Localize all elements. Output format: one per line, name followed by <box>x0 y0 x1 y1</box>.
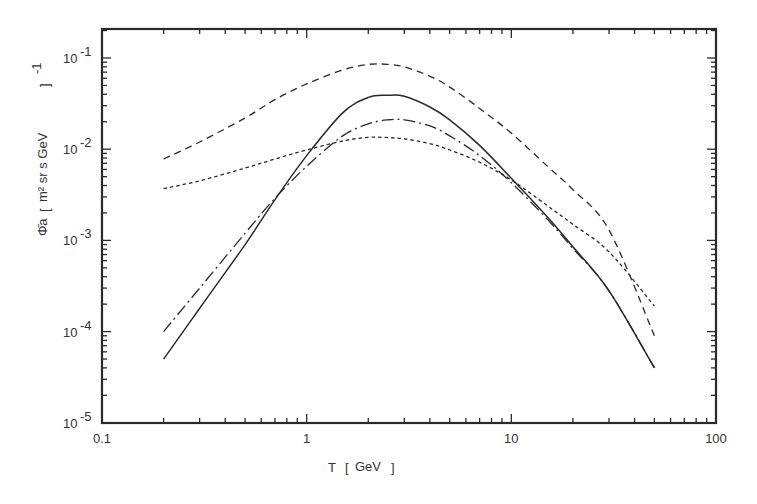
y-tick-label: 10-5 <box>63 409 92 431</box>
svg-text:10: 10 <box>63 51 77 66</box>
x-tick-label: 1 <box>303 431 310 446</box>
y-axis-unit: m² sr s GeV <box>35 132 50 202</box>
svg-text:-3: -3 <box>80 226 92 241</box>
x-axis-title: T [ GeV ] <box>328 459 395 475</box>
x-axis-symbol: T <box>328 460 336 475</box>
x-tick-label: 100 <box>705 431 727 446</box>
curve-short-dashed <box>164 137 655 306</box>
x-axis-unit: GeV <box>355 459 381 474</box>
x-axis-bracket-close: ] <box>391 460 395 475</box>
svg-text:10: 10 <box>63 416 77 431</box>
svg-text:-4: -4 <box>80 318 92 333</box>
y-tick-label: 10-2 <box>63 135 92 157</box>
curve-long-dashed <box>164 64 655 336</box>
y-axis-exponent: -1 <box>29 62 44 74</box>
y-axis-bracket-close: ] <box>37 83 52 87</box>
y-tick-label: 10-1 <box>63 44 92 66</box>
x-tick-label: 10 <box>504 431 518 446</box>
x-axis-bracket-open: [ <box>345 460 349 475</box>
curve-dash-dot <box>164 119 655 368</box>
x-tick-label: 0.1 <box>93 431 111 446</box>
svg-text:-2: -2 <box>80 135 92 150</box>
svg-text:10: 10 <box>63 233 77 248</box>
plot-border <box>102 29 716 423</box>
svg-text:-1: -1 <box>80 44 92 59</box>
y-axis-title: Φ̄a [ m² sr s GeV ] -1 <box>29 62 52 236</box>
data-curves <box>164 64 655 368</box>
svg-text:10: 10 <box>63 142 77 157</box>
y-tick-label: 10-4 <box>63 318 92 340</box>
svg-text:-5: -5 <box>80 409 92 424</box>
axis-ticks <box>102 29 716 423</box>
x-tick-labels: 0.1110100 <box>93 431 727 446</box>
y-tick-label: 10-3 <box>63 226 92 248</box>
svg-text:10: 10 <box>63 325 77 340</box>
y-axis-bracket-open: [ <box>37 208 52 212</box>
y-tick-labels: 10-110-210-310-410-5 <box>63 44 92 431</box>
chart: 0.1110100 10-110-210-310-410-5 T [ GeV ]… <box>0 0 757 504</box>
curve-solid <box>164 95 655 368</box>
y-axis-symbol: Φ̄a <box>35 218 50 236</box>
plot-frame <box>102 29 716 423</box>
